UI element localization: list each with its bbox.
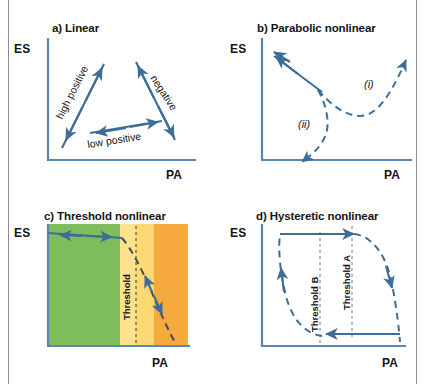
panel-c-threshold: c) Threshold nonlinear ES PA (0, 192, 214, 384)
panel-b-parabolic: b) Parabolic nonlinear ES PA (i) (ii) (214, 0, 428, 192)
panel-d-plot: Threshold A Threshold B (214, 192, 428, 384)
figure-root: a) Linear ES PA high positive (0, 0, 428, 384)
panel-c-plot: Threshold (0, 192, 214, 384)
panel-a-arrow-high-positive-up (86, 68, 102, 100)
panel-b-label-branch-ii: (ii) (298, 118, 311, 130)
panel-b-axes (262, 38, 412, 160)
panel-c-band-yellow (136, 224, 154, 346)
panel-d-hysteretic: d) Hysteretic nonlinear ES PA (214, 192, 428, 384)
panel-d-label-threshold-b: Threshold B (309, 276, 320, 332)
panel-b-curve-branch-i (318, 60, 406, 116)
panel-d-label-threshold-a: Threshold A (341, 255, 352, 310)
panel-c-band-green (48, 224, 120, 346)
panel-c-arrow-stable-right (86, 236, 112, 237)
panel-a-plot: high positive negative low positive (0, 0, 214, 192)
panel-d-curve-forward-collapse (354, 234, 400, 342)
panel-a-arrow-low-positive-right (130, 122, 158, 127)
panel-b-label-branch-i: (i) (364, 78, 374, 90)
panel-a-linear: a) Linear ES PA high positive (0, 0, 214, 192)
panel-a-label-high-positive: high positive (53, 63, 90, 121)
panel-d-arrow-recovery (281, 268, 284, 292)
panel-a-label-negative: negative (148, 73, 180, 113)
panel-b-plot: (i) (ii) (214, 0, 428, 192)
panel-a-arrow-high-positive-down (66, 108, 82, 140)
panel-c-label-threshold: Threshold (121, 274, 132, 320)
panel-c-arrow-stable-left (60, 235, 82, 236)
panel-c-band-orange (154, 224, 188, 346)
